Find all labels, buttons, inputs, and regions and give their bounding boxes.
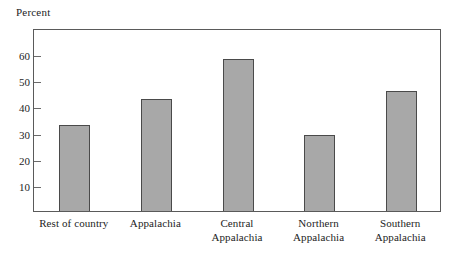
x-axis-label-1: Appalachia [115, 216, 197, 230]
y-tick-label-50: 50 [19, 76, 30, 89]
y-tick-60: 60 [34, 56, 41, 57]
y-axis-caption: Percent [16, 6, 50, 19]
bar-1 [141, 99, 172, 211]
y-tick-label-10: 10 [19, 181, 30, 194]
y-tick-label-20: 20 [19, 155, 30, 168]
bar-0 [59, 125, 90, 211]
y-tick-label-60: 60 [19, 50, 30, 63]
x-axis-label-3: Northern Appalachia [278, 216, 360, 244]
bar-4 [386, 91, 417, 211]
x-axis-labels: Rest of countryAppalachiaCentral Appalac… [33, 216, 441, 260]
y-tick-label-40: 40 [19, 102, 30, 115]
y-tick-10: 10 [34, 187, 41, 188]
bar-2 [223, 59, 254, 211]
x-axis-label-4: Southern Appalachia [359, 216, 441, 244]
y-tick-40: 40 [34, 108, 41, 109]
bar-3 [304, 135, 335, 211]
y-tick-label-30: 30 [19, 129, 30, 142]
bar-chart-figure: Percent 102030405060 Rest of countryAppa… [0, 0, 455, 261]
y-tick-50: 50 [34, 82, 41, 83]
x-axis-label-0: Rest of country [33, 216, 115, 230]
y-tick-20: 20 [34, 161, 41, 162]
plot-area: 102030405060 [33, 29, 441, 212]
x-axis-label-2: Central Appalachia [196, 216, 278, 244]
y-tick-30: 30 [34, 135, 41, 136]
